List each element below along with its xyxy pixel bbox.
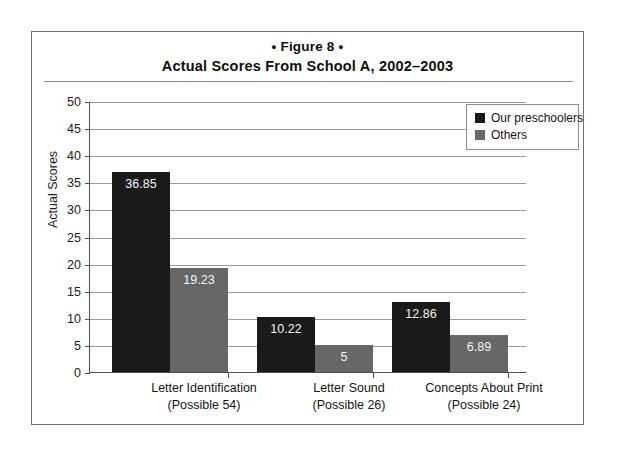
y-tick-label-5: 5 [74,339,81,353]
bar-2-0: 12.86 [392,302,450,372]
legend-entry-others: Others [475,128,571,142]
bar-value-label-0-0: 36.85 [112,177,170,191]
x-category-possible-2: (Possible 24) [425,397,542,414]
y-tick-label-50: 50 [67,95,81,109]
figure-title-block: • Figure 8 • Actual Scores From School A… [32,38,583,76]
bar-1-0: 10.22 [257,317,315,372]
x-category-possible-0: (Possible 54) [151,397,257,414]
y-tick-mark-40 [85,156,90,157]
y-tick-mark-20 [85,265,90,266]
y-tick-mark-0 [85,373,90,374]
x-category-possible-1: (Possible 26) [313,397,386,414]
y-tick-mark-15 [85,292,90,293]
gridline-40 [90,156,526,157]
legend-label-1: Others [491,128,527,142]
y-tick-label-40: 40 [67,149,81,163]
y-tick-mark-50 [85,102,90,103]
x-category-label-2: Concepts About Print (Possible 24) [425,380,542,414]
y-axis-title: Actual Scores [46,151,60,228]
legend-entry-our-preschoolers: Our preschoolers [475,111,571,125]
y-tick-label-35: 35 [67,176,81,190]
gridline-50 [90,102,526,103]
bar-value-label-2-0: 12.86 [392,307,450,321]
y-tick-mark-30 [85,210,90,211]
figure-number-label: • Figure 8 • [32,38,583,56]
plot-area: 0510152025303540455036.8519.2310.22512.8… [89,102,526,373]
y-tick-label-20: 20 [67,258,81,272]
y-tick-mark-10 [85,319,90,320]
bar-1-1: 5 [315,345,373,372]
legend-swatch-icon-1 [475,130,485,140]
bar-value-label-0-1: 19.23 [170,273,228,287]
bar-value-label-2-1: 6.89 [450,340,508,354]
y-tick-mark-25 [85,238,90,239]
chart-legend: Our preschoolers Others [466,104,579,150]
y-tick-label-0: 0 [74,366,81,380]
x-tick-mark-1 [373,372,374,378]
bar-value-label-1-0: 10.22 [257,322,315,336]
y-tick-mark-5 [85,346,90,347]
figure-frame: • Figure 8 • Actual Scores From School A… [31,31,584,425]
x-tick-mark-2 [508,372,509,378]
x-category-label-0: Letter Identification (Possible 54) [151,380,257,414]
x-category-label-1: Letter Sound (Possible 26) [313,380,386,414]
legend-label-0: Our preschoolers [491,111,583,125]
title-divider [44,81,573,82]
x-category-name-1: Letter Sound [313,380,386,397]
bar-2-1: 6.89 [450,335,508,372]
y-tick-label-25: 25 [67,231,81,245]
y-tick-label-15: 15 [67,285,81,299]
legend-swatch-icon-0 [475,113,485,123]
y-tick-mark-35 [85,183,90,184]
x-category-name-2: Concepts About Print [425,380,542,397]
bar-0-1: 19.23 [170,268,228,372]
y-tick-label-45: 45 [67,122,81,136]
bar-value-label-1-1: 5 [315,350,373,364]
x-tick-mark-0 [228,372,229,378]
x-category-name-0: Letter Identification [151,380,257,397]
figure-title: Actual Scores From School A, 2002–2003 [32,56,583,76]
y-tick-label-10: 10 [67,312,81,326]
y-tick-label-30: 30 [67,203,81,217]
bar-0-0: 36.85 [112,172,170,372]
gridline-45 [90,129,526,130]
y-tick-mark-45 [85,129,90,130]
